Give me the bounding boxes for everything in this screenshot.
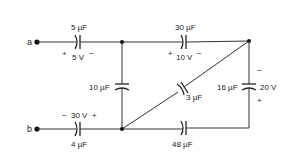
capacitor-16uf-voltage: 20 V	[260, 83, 277, 92]
wire-diagonal-lower	[122, 92, 178, 129]
capacitor-4uf: − 30 V + 4 µF	[62, 111, 97, 149]
capacitor-10uf: 10 µF	[89, 83, 129, 92]
terminal-b-label: b	[27, 124, 32, 134]
capacitor-4uf-capacitance: 4 µF	[71, 140, 87, 149]
capacitor-10uf-capacitance: 10 µF	[89, 83, 110, 92]
capacitor-30uf-minus: −	[197, 49, 202, 58]
capacitor-30uf-plus: +	[168, 49, 173, 58]
capacitor-16uf-capacitance: 16 µF	[217, 83, 238, 92]
capacitor-16uf-minus: −	[257, 66, 262, 75]
capacitor-16uf-plus: +	[257, 96, 262, 105]
capacitor-4uf-plus: +	[92, 111, 97, 120]
capacitor-3uf-capacitance: 3 µF	[186, 93, 202, 102]
capacitor-5uf-capacitance: 5 µF	[71, 23, 87, 32]
junction-bottom	[120, 127, 124, 131]
capacitor-48uf-curved-plate	[181, 121, 183, 135]
capacitor-5uf-minus: −	[89, 49, 94, 58]
wire-diagonal-upper	[184, 41, 249, 87]
capacitor-48uf: 48 µF	[172, 121, 193, 149]
capacitor-4uf-voltage: 30 V	[71, 111, 88, 120]
capacitor-30uf-capacitance: 30 µF	[175, 23, 196, 32]
terminal-a-label: a	[27, 37, 32, 47]
circuit-diagram: a 5 µF + 5 V − 30 µF + 10 V − 10 µF 3 µF	[0, 0, 290, 163]
wire-30uf-to-corner	[186, 41, 249, 42]
capacitor-5uf-plus: +	[62, 49, 67, 58]
capacitor-4uf-minus: −	[62, 111, 67, 120]
capacitor-3uf: 3 µF	[177, 82, 202, 102]
capacitor-3uf-flat-plate	[181, 82, 188, 93]
capacitor-16uf: 16 µF − 20 V +	[217, 66, 277, 105]
capacitor-30uf-voltage: 10 V	[176, 53, 193, 62]
capacitor-5uf-voltage: 5 V	[72, 53, 85, 62]
capacitor-48uf-capacitance: 48 µF	[172, 140, 193, 149]
